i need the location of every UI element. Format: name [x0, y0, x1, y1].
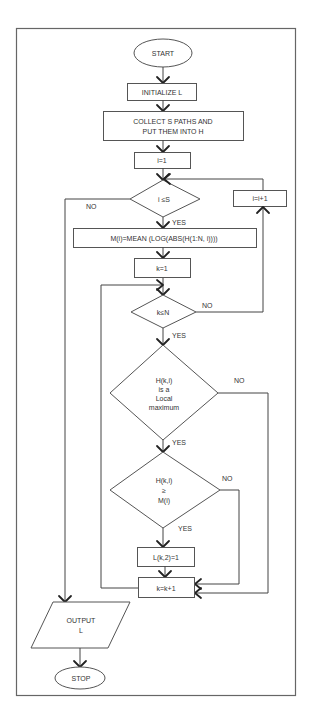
- output-label-1: OUTPUT: [67, 617, 97, 624]
- local-max-label-4: maximum: [149, 404, 180, 411]
- mean-label: M(i)=MEAN (LOG(ABS(H(1:N, i)))): [110, 235, 217, 243]
- collect-label-1: COLLECT S PATHS AND: [133, 118, 212, 125]
- collect-label-2: PUT THEM INTO H: [142, 128, 203, 135]
- initialize-label: INITIALIZE L: [142, 89, 183, 96]
- k-increment-label: k=k+1: [156, 585, 175, 592]
- start-label: START: [152, 50, 175, 57]
- i-init-label: i=1: [157, 157, 167, 164]
- no-label-local-max: NO: [234, 377, 245, 384]
- yes-label-local-max: YES: [172, 439, 186, 446]
- yes-label-i: YES: [172, 219, 186, 226]
- flowchart: START INITIALIZE L COLLECT S PATHS AND P…: [0, 0, 310, 719]
- stop-label: STOP: [72, 675, 91, 682]
- set-l-label: L(k,2)=1: [153, 554, 179, 562]
- k-condition-label: k≤N: [157, 309, 169, 316]
- no-label-k: NO: [202, 302, 213, 309]
- compare-label-3: M(i): [158, 497, 170, 505]
- local-max-label-1: H(k,i): [156, 377, 173, 385]
- k-init-label: k=1: [156, 265, 168, 272]
- local-max-label-3: Local: [156, 395, 173, 402]
- collect-box: [104, 112, 244, 141]
- i-increment-label: i=i+1: [252, 195, 267, 202]
- i-condition-label: i ≤S: [158, 196, 170, 203]
- no-label-compare: NO: [222, 475, 233, 482]
- compare-label-1: H(k,i): [156, 477, 173, 485]
- no-label-i: NO: [86, 203, 97, 210]
- output-label-2: L: [79, 627, 83, 634]
- yes-label-k: YES: [172, 332, 186, 339]
- compare-label-2: ≥: [162, 487, 166, 494]
- local-max-label-2: is a: [159, 386, 170, 393]
- yes-label-compare: YES: [178, 525, 192, 532]
